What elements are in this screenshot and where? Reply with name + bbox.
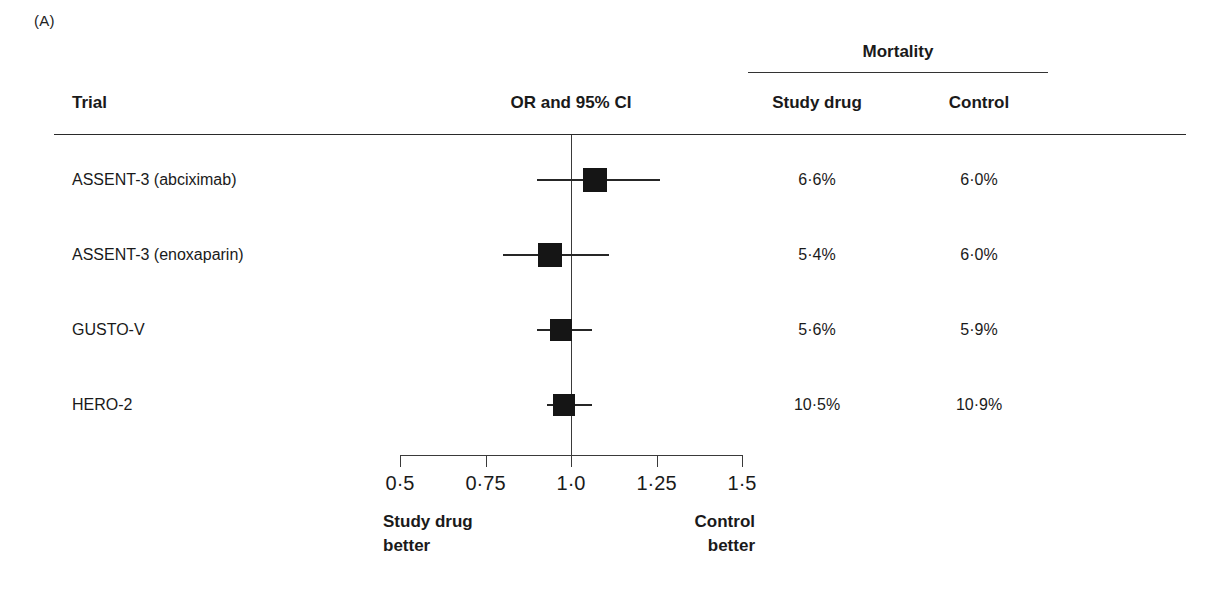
x-axis-line xyxy=(400,455,742,456)
odds-ratio-marker xyxy=(583,168,607,192)
column-group-header-mortality: Mortality xyxy=(748,42,1048,62)
confidence-interval-line xyxy=(537,179,660,181)
forest-plot-row: ASSENT-3 (enoxaparin)5·4%6·0% xyxy=(0,240,1214,270)
panel-label: (A) xyxy=(34,12,55,29)
x-axis-tick xyxy=(657,455,658,467)
x-axis-tick xyxy=(486,455,487,467)
column-header-or-ci: OR and 95% CI xyxy=(440,93,702,113)
column-group-rule xyxy=(748,72,1048,73)
odds-ratio-marker xyxy=(553,394,575,416)
forest-plot-row: HERO-210·5%10·9% xyxy=(0,390,1214,420)
x-axis-tick xyxy=(400,455,401,467)
reference-line-or-1 xyxy=(571,135,572,456)
x-axis-tick-label: 1·5 xyxy=(697,472,787,495)
x-axis-tick-label: 0·75 xyxy=(441,472,531,495)
axis-annotation-right-line1: Control xyxy=(595,510,755,534)
confidence-interval-line xyxy=(537,329,592,331)
axis-annotation-left-line2: better xyxy=(383,534,563,558)
row-value-control: 10·9% xyxy=(902,390,1056,420)
header-divider-rule xyxy=(54,134,1186,135)
x-axis-tick-label: 0·5 xyxy=(355,472,445,495)
axis-annotation-right-line2: better xyxy=(595,534,755,558)
row-label-trial: HERO-2 xyxy=(72,390,132,420)
row-value-study-drug: 5·6% xyxy=(740,315,894,345)
column-header-trial: Trial xyxy=(72,93,107,113)
forest-plot-row: ASSENT-3 (abciximab)6·6%6·0% xyxy=(0,165,1214,195)
axis-annotation-right: Control better xyxy=(595,510,755,558)
x-axis-tick xyxy=(742,455,743,467)
row-value-control: 6·0% xyxy=(902,240,1056,270)
x-axis-tick-label: 1·0 xyxy=(526,472,616,495)
row-value-study-drug: 5·4% xyxy=(740,240,894,270)
row-label-trial: ASSENT-3 (abciximab) xyxy=(72,165,237,195)
x-axis-tick-label: 1·25 xyxy=(612,472,702,495)
odds-ratio-marker xyxy=(538,243,562,267)
row-value-control: 6·0% xyxy=(902,165,1056,195)
axis-annotation-left: Study drug better xyxy=(383,510,563,558)
odds-ratio-marker xyxy=(550,319,572,341)
row-label-trial: ASSENT-3 (enoxaparin) xyxy=(72,240,244,270)
forest-plot-row: GUSTO-V5·6%5·9% xyxy=(0,315,1214,345)
axis-annotation-left-line1: Study drug xyxy=(383,510,563,534)
confidence-interval-line xyxy=(547,404,591,406)
confidence-interval-line xyxy=(503,254,609,256)
column-header-control: Control xyxy=(902,93,1056,113)
column-header-study-drug: Study drug xyxy=(740,93,894,113)
row-value-study-drug: 6·6% xyxy=(740,165,894,195)
row-value-study-drug: 10·5% xyxy=(740,390,894,420)
x-axis-tick xyxy=(571,455,572,467)
row-value-control: 5·9% xyxy=(902,315,1056,345)
row-label-trial: GUSTO-V xyxy=(72,315,145,345)
